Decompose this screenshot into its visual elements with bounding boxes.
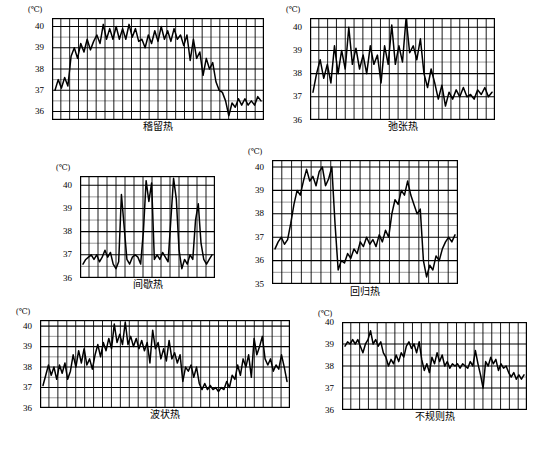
axis-unit-label: (℃) (248, 148, 262, 156)
plot-area-sustained-fever (52, 18, 264, 120)
y-tick-label: 39 (242, 186, 264, 195)
axis-unit-label: (℃) (28, 6, 42, 14)
plot-area-irregular-fever (342, 322, 527, 410)
y-tick-label: 36 (10, 404, 32, 413)
temperature-curve (345, 331, 524, 388)
chart-caption-relapsing-fever: 回归热 (272, 287, 458, 297)
plot-svg-irregular-fever (342, 322, 527, 410)
axis-unit-label: (℃) (16, 308, 30, 316)
y-tick-label: 36 (280, 116, 302, 125)
axis-unit-label: (℃) (286, 6, 300, 14)
y-tick-label: 39 (312, 340, 334, 349)
plot-svg-sustained-fever (52, 18, 264, 120)
plot-area-relapsing-fever (272, 160, 458, 284)
plot-area-intermittent-fever (80, 176, 215, 278)
chart-caption-sustained-fever: 稽留热 (52, 122, 264, 132)
y-tick-label: 38 (280, 69, 302, 78)
y-tick-label: 36 (312, 406, 334, 415)
plot-svg-undulant-fever (40, 320, 290, 408)
y-tick-label: 40 (280, 23, 302, 32)
y-tick-label: 38 (22, 65, 44, 74)
y-tick-label: 40 (10, 322, 32, 331)
y-tick-label: 37 (312, 384, 334, 393)
y-tick-label: 36 (22, 107, 44, 116)
plot-area-undulant-fever (40, 320, 290, 408)
y-tick-label: 40 (242, 163, 264, 172)
y-tick-label: 40 (312, 318, 334, 327)
y-tick-label: 38 (242, 209, 264, 218)
chart-caption-irregular-fever: 不规则热 (342, 412, 527, 422)
plot-svg-relapsing-fever (272, 160, 458, 284)
y-tick-label: 37 (280, 92, 302, 101)
y-tick-label: 39 (22, 43, 44, 52)
plot-svg-intermittent-fever (80, 176, 215, 278)
y-tick-label: 38 (312, 362, 334, 371)
y-tick-label: 37 (242, 233, 264, 242)
y-tick-label: 38 (50, 227, 72, 236)
chart-caption-intermittent-fever: 间歇热 (80, 280, 215, 290)
axis-unit-label: (℃) (56, 164, 70, 172)
y-tick-label: 35 (242, 280, 264, 289)
y-tick-label: 37 (10, 383, 32, 392)
y-tick-label: 40 (50, 181, 72, 190)
y-tick-label: 37 (22, 86, 44, 95)
y-tick-label: 38 (10, 363, 32, 372)
chart-caption-remittent-fever: 弛张热 (310, 122, 495, 132)
y-tick-label: 39 (280, 46, 302, 55)
y-tick-label: 36 (50, 274, 72, 283)
y-tick-label: 36 (242, 256, 264, 265)
plot-area-remittent-fever (310, 18, 495, 120)
y-tick-label: 37 (50, 250, 72, 259)
y-tick-label: 39 (10, 342, 32, 351)
chart-caption-undulant-fever: 波状热 (40, 410, 290, 420)
y-tick-label: 40 (22, 22, 44, 31)
y-tick-label: 39 (50, 204, 72, 213)
plot-svg-remittent-fever (310, 18, 495, 120)
